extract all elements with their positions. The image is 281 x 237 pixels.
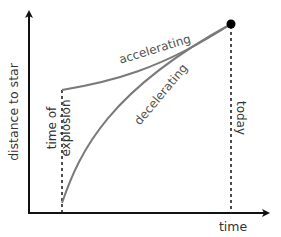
- explosion-label-line1: time of: [45, 106, 59, 149]
- accelerating-label: accelerating: [117, 32, 192, 67]
- y-axis-label: distance to star: [6, 62, 21, 161]
- expansion-diagram: distance to star time time of explosion …: [0, 0, 281, 237]
- x-axis-label: time: [219, 219, 248, 234]
- today-dot: [227, 20, 236, 29]
- explosion-label-line2: explosion: [59, 99, 73, 156]
- today-label: today: [234, 101, 248, 135]
